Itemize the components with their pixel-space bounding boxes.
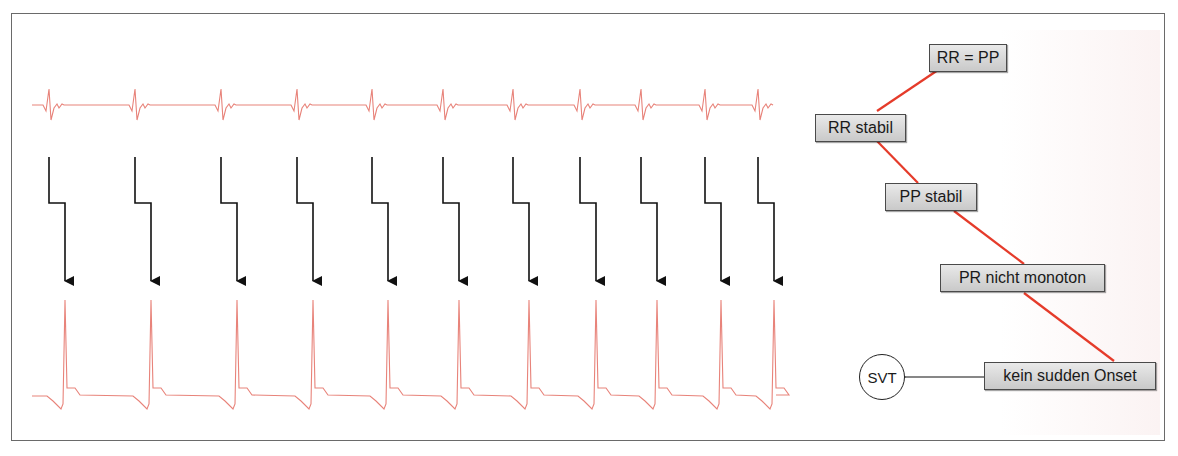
- node-pp-stabil: PP stabil: [885, 183, 977, 211]
- node-rr-equals-pp: RR = PP: [929, 44, 1007, 72]
- node-label: PR nicht monoton: [959, 269, 1086, 287]
- node-rr-stabil: RR stabil: [815, 114, 906, 142]
- ventricular-trace: [32, 300, 789, 409]
- conduction-arrow: [372, 157, 388, 281]
- conduction-arrow: [49, 157, 65, 281]
- ventricular-trace-path: [32, 300, 789, 409]
- atrial-trace: [32, 89, 773, 120]
- atrial-trace-path: [32, 89, 773, 120]
- conduction-arrow: [513, 157, 529, 281]
- node-label: PP stabil: [900, 188, 963, 206]
- conduction-arrow: [758, 157, 774, 281]
- result-svt: SVT: [859, 354, 905, 400]
- conduction-arrow: [297, 157, 313, 281]
- node-pr-nicht-monoton: PR nicht monoton: [940, 264, 1105, 292]
- conduction-arrow: [580, 157, 596, 281]
- decision-path-lines: [876, 70, 1114, 361]
- node-label: RR stabil: [828, 119, 893, 137]
- node-label: kein sudden Onset: [1003, 367, 1136, 385]
- conduction-arrow: [221, 157, 237, 281]
- conduction-arrow: [135, 157, 151, 281]
- node-kein-sudden-onset: kein sudden Onset: [984, 362, 1156, 390]
- node-label: RR = PP: [937, 49, 1000, 67]
- conduction-arrows: [49, 157, 774, 281]
- conduction-arrow: [443, 157, 459, 281]
- result-label: SVT: [867, 369, 896, 386]
- conduction-arrow: [705, 157, 721, 281]
- conduction-arrow: [641, 157, 657, 281]
